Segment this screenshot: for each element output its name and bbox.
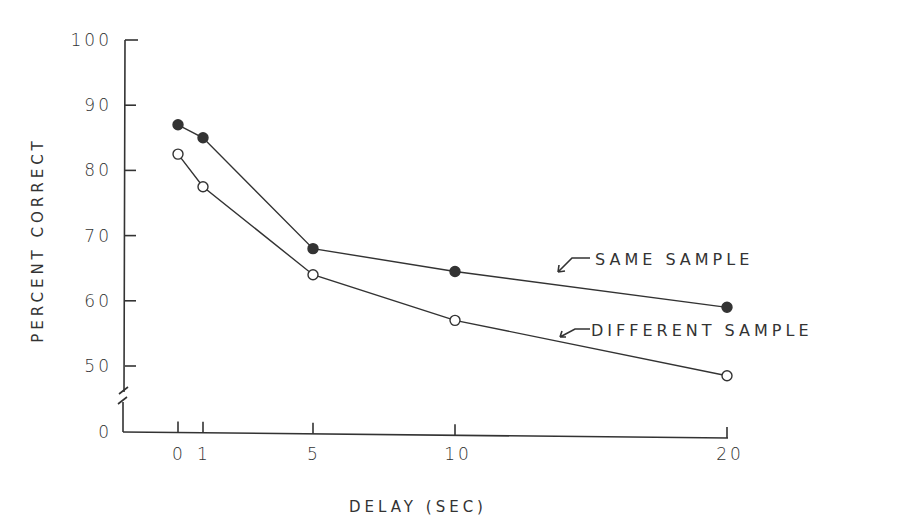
- x-tick-label: 5: [307, 444, 321, 464]
- x-tick-label: 1: [197, 444, 211, 464]
- x-tick-label: 10: [444, 444, 472, 464]
- legend-same-sample: SAME SAMPLE: [558, 250, 753, 272]
- y-tick-label: 90: [84, 95, 112, 115]
- filled-circle-marker: [198, 133, 208, 143]
- filled-circle-marker: [173, 120, 183, 130]
- open-circle-marker: [173, 149, 183, 159]
- legend-label-same: SAME SAMPLE: [595, 250, 753, 269]
- legend-label-different: DIFFERENT SAMPLE: [591, 321, 812, 340]
- axis-break-icon: [118, 387, 128, 404]
- y-axis-title: PERCENT CORRECT: [29, 137, 47, 343]
- filled-circle-marker: [450, 266, 460, 276]
- y-tick-label: 70: [84, 226, 112, 246]
- arrow-icon: [558, 258, 590, 272]
- x-axis-line: [123, 432, 728, 438]
- filled-circle-marker: [308, 244, 318, 254]
- y-tick-label: 80: [84, 160, 112, 180]
- x-axis-title: DELAY (SEC): [349, 498, 487, 516]
- open-circle-marker: [450, 315, 460, 325]
- open-circle-marker: [308, 270, 318, 280]
- y-tick-label: 50: [84, 356, 112, 376]
- y-tick-label: 0: [98, 422, 112, 442]
- x-tick-label: 20: [716, 444, 744, 464]
- series-line-same: [178, 125, 727, 308]
- axes: 050607080901000151020: [71, 30, 744, 464]
- open-circle-marker: [722, 371, 732, 381]
- arrow-icon: [560, 329, 590, 337]
- y-axis-line: [123, 40, 125, 432]
- y-tick-label: 100: [71, 30, 112, 50]
- legend-different-sample: DIFFERENT SAMPLE: [560, 321, 812, 340]
- x-tick-label: 0: [172, 444, 186, 464]
- filled-circle-marker: [722, 302, 732, 312]
- y-tick-label: 60: [84, 291, 112, 311]
- line-chart: 050607080901000151020 PERCENT CORRECT DE…: [0, 0, 903, 531]
- open-circle-marker: [198, 182, 208, 192]
